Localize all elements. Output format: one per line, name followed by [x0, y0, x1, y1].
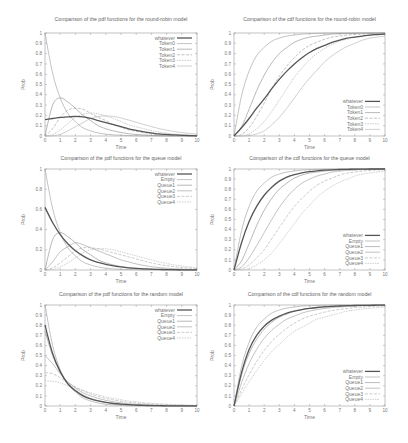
y-tick-label: 0	[228, 134, 231, 139]
y-tick-label: 0.6	[36, 72, 43, 77]
y-tick-label: 0	[228, 404, 231, 409]
y-tick-label: 0.5	[36, 353, 43, 358]
chart-title: Comparison of the cdf functions for the …	[249, 155, 370, 161]
y-tick-label: 0	[228, 268, 231, 273]
chart-legend: whateverEmptyQueue1Queue2Queue3Queue4	[155, 307, 192, 341]
x-tick-label: 5	[120, 138, 123, 143]
y-tick-label: 0.4	[36, 92, 43, 97]
series-line-whatever	[45, 116, 197, 135]
x-tick-label: 7	[338, 272, 341, 277]
y-tick-label: 0.7	[225, 62, 232, 67]
y-tick-label: 0.9	[36, 41, 43, 46]
y-tick-label: 0.8	[225, 323, 232, 328]
x-tick-label: 4	[293, 408, 296, 413]
y-tick-label: 0.5	[225, 82, 232, 87]
x-tick-label: 0	[233, 272, 236, 277]
chart-panel-rr_cdf: Comparison of the cdf functions for the …	[209, 16, 388, 150]
y-tick-label: 0.7	[225, 333, 232, 338]
figure-grid: Comparison of the pdf functions for the …	[0, 0, 408, 443]
x-tick-label: 6	[135, 408, 138, 413]
x-tick-label: 0	[44, 138, 47, 143]
x-tick-label: 4	[105, 272, 108, 277]
x-tick-label: 7	[150, 272, 153, 277]
y-tick-label: 0.6	[36, 343, 43, 348]
x-tick-label: 3	[89, 138, 92, 143]
legend-label-queue4: Queue4	[345, 260, 363, 266]
x-tick-label: 10	[194, 272, 200, 277]
x-tick-label: 6	[323, 272, 326, 277]
x-tick-label: 1	[59, 138, 62, 143]
x-tick-label: 2	[74, 138, 77, 143]
series-line-queue1	[45, 233, 197, 270]
x-tick-label: 10	[382, 272, 388, 277]
series-line-queue2	[45, 243, 197, 270]
y-axis-label: Prob	[20, 79, 26, 90]
y-axis-label: Prob	[20, 214, 26, 225]
y-tick-label: 1	[228, 303, 231, 308]
y-tick-label: 0.2	[225, 113, 232, 118]
y-tick-label: 0.2	[36, 383, 43, 388]
x-tick-label: 5	[308, 272, 311, 277]
chart-title: Comparison of the cdf functions for the …	[243, 16, 376, 22]
y-axis-label: Prob	[20, 350, 26, 361]
y-tick-label: 0.7	[36, 333, 43, 338]
chart-title: Comparison of the pdf functions for the …	[55, 16, 188, 22]
x-tick-label: 1	[59, 272, 62, 277]
y-tick-label: 0.4	[36, 363, 43, 368]
x-tick-label: 9	[181, 408, 184, 413]
x-axis-label: Time	[116, 414, 127, 420]
x-tick-label: 10	[382, 408, 388, 413]
x-tick-label: 10	[194, 408, 200, 413]
y-tick-label: 0	[39, 268, 42, 273]
x-tick-label: 10	[194, 138, 200, 143]
x-tick-label: 6	[135, 272, 138, 277]
y-tick-label: 0.3	[36, 373, 43, 378]
x-tick-label: 2	[74, 408, 77, 413]
y-tick-label: 0.9	[225, 177, 232, 182]
y-tick-label: 0.1	[225, 258, 232, 263]
x-tick-label: 8	[354, 408, 357, 413]
x-tick-label: 9	[369, 408, 372, 413]
x-tick-label: 5	[120, 408, 123, 413]
series-line-queue3	[45, 373, 197, 406]
chart-panel-queue_cdf: Comparison of the cdf functions for the …	[209, 155, 388, 284]
x-tick-label: 10	[382, 138, 388, 143]
x-tick-label: 6	[323, 408, 326, 413]
series-line-token4	[45, 116, 197, 136]
x-tick-label: 2	[263, 272, 266, 277]
x-tick-label: 0	[233, 408, 236, 413]
series-line-token2	[45, 108, 197, 136]
x-tick-label: 7	[338, 138, 341, 143]
legend-label-queue4: Queue4	[157, 199, 175, 205]
y-tick-label: 1	[228, 167, 231, 172]
y-tick-label: 0.1	[225, 123, 232, 128]
y-tick-label: 0.9	[36, 313, 43, 318]
chart-legend: whateverEmptyQueue1Queue2Queue3Queue4	[343, 368, 380, 402]
chart-legend: whateverEmptyQueue1Queue2Queue3Queue4	[343, 232, 380, 266]
y-tick-label: 0.7	[36, 62, 43, 67]
x-tick-label: 1	[59, 408, 62, 413]
x-tick-label: 1	[248, 138, 251, 143]
chart-title: Comparison of the pdf functions for the …	[59, 291, 183, 297]
y-tick-label: 0.2	[225, 383, 232, 388]
x-tick-label: 9	[369, 272, 372, 277]
x-tick-label: 0	[44, 272, 47, 277]
y-tick-label: 0	[39, 134, 42, 139]
y-tick-label: 0.8	[36, 323, 43, 328]
y-tick-label: 0.4	[225, 363, 232, 368]
x-tick-label: 3	[89, 408, 92, 413]
x-tick-label: 8	[354, 272, 357, 277]
y-tick-label: 0.8	[36, 51, 43, 56]
chart-legend: whateverToken0Token1Token2Token3Token4	[155, 35, 192, 69]
y-tick-label: 0.3	[225, 237, 232, 242]
x-tick-label: 8	[354, 138, 357, 143]
y-tick-label: 0.6	[36, 207, 43, 212]
y-tick-label: 0.5	[225, 353, 232, 358]
y-tick-label: 0.7	[225, 197, 232, 202]
y-tick-label: 0.3	[225, 103, 232, 108]
chart-legend: whateverToken0Token1Token2Token3Token4	[343, 98, 380, 132]
y-tick-label: 0.1	[36, 123, 43, 128]
legend-label-token4: Token4	[347, 126, 363, 132]
y-tick-label: 0.5	[225, 217, 232, 222]
x-tick-label: 3	[89, 272, 92, 277]
